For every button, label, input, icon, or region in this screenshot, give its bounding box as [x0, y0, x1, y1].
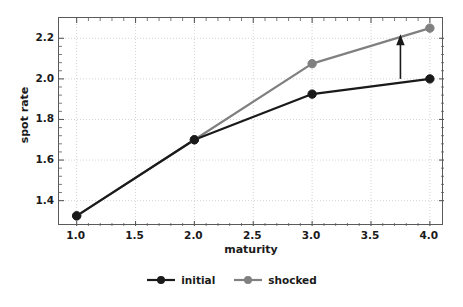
x-tick-label: 1.5: [115, 229, 155, 241]
legend-label: shocked: [268, 274, 317, 286]
legend-swatch-initial: [146, 274, 176, 286]
x-axis-tick-labels: 1.01.52.02.53.03.54.0: [0, 0, 463, 307]
x-tick-label: 3.0: [291, 229, 331, 241]
chart-figure: spot rate 1.41.61.82.02.2 1.01.52.02.53.…: [0, 0, 463, 307]
x-tick-label: 4.0: [409, 229, 449, 241]
chart-legend: initialshocked: [0, 274, 463, 286]
legend-swatch-shocked: [233, 274, 263, 286]
x-tick-label: 3.5: [350, 229, 390, 241]
legend-marker: [157, 276, 165, 284]
legend-label: initial: [181, 274, 215, 286]
legend-item-shocked[interactable]: shocked: [233, 274, 317, 286]
x-axis-title: maturity: [58, 243, 444, 256]
legend-item-initial[interactable]: initial: [146, 274, 215, 286]
x-tick-label: 2.0: [173, 229, 213, 241]
x-tick-label: 1.0: [56, 229, 96, 241]
x-tick-label: 2.5: [232, 229, 272, 241]
legend-marker: [244, 276, 252, 284]
